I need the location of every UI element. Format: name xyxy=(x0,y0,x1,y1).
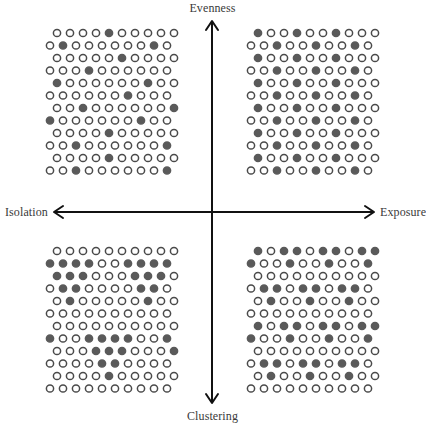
empty-circle-icon xyxy=(332,372,339,379)
empty-circle-icon xyxy=(118,322,125,329)
axis-label-clustering: Clustering xyxy=(0,409,425,424)
empty-circle-icon xyxy=(66,79,73,86)
filled-circle-icon xyxy=(46,335,53,342)
empty-circle-icon xyxy=(98,67,105,74)
filled-circle-icon xyxy=(267,297,274,304)
empty-circle-icon xyxy=(79,129,86,136)
empty-circle-icon xyxy=(124,42,131,49)
empty-circle-icon xyxy=(170,322,177,329)
filled-circle-icon xyxy=(137,117,144,124)
empty-circle-icon xyxy=(137,335,144,342)
filled-circle-icon xyxy=(312,92,319,99)
empty-circle-icon xyxy=(293,372,300,379)
filled-circle-icon xyxy=(273,67,280,74)
empty-circle-icon xyxy=(299,92,306,99)
empty-circle-icon xyxy=(267,154,274,161)
filled-circle-icon xyxy=(319,322,326,329)
filled-circle-icon xyxy=(306,297,313,304)
empty-circle-icon xyxy=(358,372,365,379)
empty-circle-icon xyxy=(364,385,371,392)
empty-circle-icon xyxy=(286,310,293,317)
empty-circle-icon xyxy=(118,29,125,36)
filled-circle-icon xyxy=(66,297,73,304)
filled-circle-icon xyxy=(105,29,112,36)
empty-circle-icon xyxy=(137,385,144,392)
empty-circle-icon xyxy=(293,347,300,354)
filled-circle-icon xyxy=(144,79,151,86)
dot-grid xyxy=(40,243,180,393)
empty-circle-icon xyxy=(124,167,131,174)
empty-circle-icon xyxy=(319,297,326,304)
filled-circle-icon xyxy=(332,29,339,36)
filled-circle-icon xyxy=(332,154,339,161)
empty-circle-icon xyxy=(85,167,92,174)
empty-circle-icon xyxy=(59,385,66,392)
empty-circle-icon xyxy=(286,67,293,74)
empty-circle-icon xyxy=(332,347,339,354)
empty-circle-icon xyxy=(98,385,105,392)
empty-circle-icon xyxy=(124,67,131,74)
empty-circle-icon xyxy=(312,260,319,267)
empty-circle-icon xyxy=(157,297,164,304)
empty-circle-icon xyxy=(150,360,157,367)
empty-circle-icon xyxy=(247,385,254,392)
empty-circle-icon xyxy=(111,67,118,74)
empty-circle-icon xyxy=(111,260,118,267)
filled-circle-icon xyxy=(131,272,138,279)
empty-circle-icon xyxy=(46,142,53,149)
empty-circle-icon xyxy=(92,297,99,304)
empty-circle-icon xyxy=(53,104,60,111)
empty-circle-icon xyxy=(131,104,138,111)
filled-circle-icon xyxy=(293,79,300,86)
empty-circle-icon xyxy=(144,104,151,111)
filled-circle-icon xyxy=(364,260,371,267)
empty-circle-icon xyxy=(79,247,86,254)
filled-circle-icon xyxy=(53,79,60,86)
empty-circle-icon xyxy=(85,310,92,317)
filled-circle-icon xyxy=(364,335,371,342)
empty-circle-icon xyxy=(332,272,339,279)
empty-circle-icon xyxy=(371,154,378,161)
empty-circle-icon xyxy=(306,29,313,36)
empty-circle-icon xyxy=(267,247,274,254)
empty-circle-icon xyxy=(273,310,280,317)
empty-circle-icon xyxy=(299,167,306,174)
filled-circle-icon xyxy=(144,297,151,304)
filled-circle-icon xyxy=(98,360,105,367)
empty-circle-icon xyxy=(358,272,365,279)
empty-circle-icon xyxy=(111,310,118,317)
filled-circle-icon xyxy=(351,360,358,367)
filled-circle-icon xyxy=(59,260,66,267)
filled-circle-icon xyxy=(312,117,319,124)
filled-circle-icon xyxy=(98,335,105,342)
empty-circle-icon xyxy=(364,285,371,292)
empty-circle-icon xyxy=(72,117,79,124)
empty-circle-icon xyxy=(137,360,144,367)
empty-circle-icon xyxy=(105,322,112,329)
empty-circle-icon xyxy=(72,310,79,317)
empty-circle-icon xyxy=(306,54,313,61)
filled-circle-icon xyxy=(371,247,378,254)
empty-circle-icon xyxy=(92,29,99,36)
empty-circle-icon xyxy=(105,272,112,279)
empty-circle-icon xyxy=(306,154,313,161)
empty-circle-icon xyxy=(332,297,339,304)
empty-circle-icon xyxy=(111,92,118,99)
filled-circle-icon xyxy=(254,129,261,136)
empty-circle-icon xyxy=(163,385,170,392)
empty-circle-icon xyxy=(286,92,293,99)
filled-circle-icon xyxy=(325,260,332,267)
filled-circle-icon xyxy=(59,42,66,49)
empty-circle-icon xyxy=(131,79,138,86)
empty-circle-icon xyxy=(131,297,138,304)
empty-circle-icon xyxy=(144,154,151,161)
empty-circle-icon xyxy=(111,142,118,149)
empty-circle-icon xyxy=(371,129,378,136)
empty-circle-icon xyxy=(299,260,306,267)
empty-circle-icon xyxy=(118,154,125,161)
filled-circle-icon xyxy=(273,360,280,367)
empty-circle-icon xyxy=(299,335,306,342)
empty-circle-icon xyxy=(306,322,313,329)
empty-circle-icon xyxy=(358,104,365,111)
filled-circle-icon xyxy=(312,142,319,149)
